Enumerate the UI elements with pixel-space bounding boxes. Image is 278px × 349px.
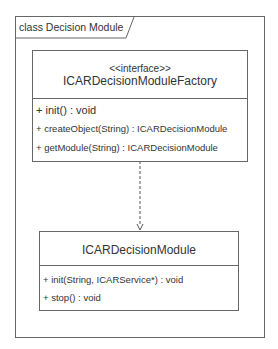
operation-init: + init() : void bbox=[33, 102, 247, 119]
stereotype-label: <<interface>> bbox=[33, 63, 247, 74]
interface-name: ICARDecisionModuleFactory bbox=[33, 74, 247, 88]
interface-operations: + init() : void + createObject(String) :… bbox=[33, 99, 247, 157]
operation-get-module: + getModule(String) : ICARDecisionModule bbox=[33, 138, 247, 157]
interface-box[interactable]: <<interface>> ICARDecisionModuleFactory … bbox=[32, 50, 248, 162]
operation-stop: + stop() : void bbox=[40, 289, 238, 307]
class-operations: + init(String, ICARService*) : void + st… bbox=[40, 266, 238, 307]
class-box[interactable]: ICARDecisionModule + init(String, ICARSe… bbox=[39, 231, 239, 311]
operation-init: + init(String, ICARService*) : void bbox=[40, 271, 238, 289]
class-name: ICARDecisionModule bbox=[82, 243, 196, 257]
interface-header: <<interface>> ICARDecisionModuleFactory bbox=[33, 51, 247, 99]
operation-create-object: + createObject(String) : ICARDecisionMod… bbox=[33, 119, 247, 138]
class-header: ICARDecisionModule bbox=[40, 232, 238, 266]
